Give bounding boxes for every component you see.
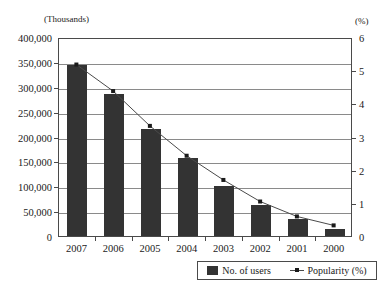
y-axis-left-tick-label: 300,000 (18, 82, 52, 93)
popularity-point-2004 (185, 154, 189, 158)
popularity-point-2005 (148, 124, 152, 128)
legend-item-popularity: Popularity (%) (290, 265, 367, 277)
x-axis-tick-mark (205, 237, 206, 241)
x-axis-tick-mark (132, 237, 133, 241)
popularity-point-2000 (332, 223, 336, 227)
popularity-point-2001 (295, 214, 299, 218)
legend-item-no-of-users: No. of users (207, 265, 271, 277)
legend-label-no-of-users: No. of users (222, 265, 271, 277)
y-axis-left-tick-label: 100,000 (18, 182, 52, 193)
y-axis-right-tick-label: 6 (359, 33, 364, 44)
right-axis-unit-label: (%) (355, 16, 369, 27)
popularity-point-2007 (74, 63, 78, 67)
x-axis-label-2000: 2000 (310, 243, 358, 255)
y-axis-right-tick-label: 0 (359, 232, 364, 243)
x-axis-tick-mark (95, 237, 96, 241)
y-axis-left-tick-label: 350,000 (18, 57, 52, 68)
y-axis-left-tick-label: 200,000 (18, 132, 52, 143)
y-axis-right-tick-label: 5 (359, 66, 364, 77)
bar-swatch-icon (207, 266, 218, 275)
y-axis-right-tick-label: 1 (359, 198, 364, 209)
legend-label-popularity: Popularity (%) (308, 265, 367, 277)
y-axis-left-tick-label: 250,000 (18, 107, 52, 118)
x-axis-tick-mark (168, 237, 169, 241)
left-axis-unit-label: (Thousands) (44, 14, 89, 25)
popularity-point-2006 (111, 89, 115, 93)
y-axis-right-tick-mark (352, 171, 356, 172)
x-axis-tick-mark (279, 237, 280, 241)
y-axis-right-tick-label: 3 (359, 132, 364, 143)
x-axis-tick-mark (242, 237, 243, 241)
y-axis-right-tick-mark (352, 138, 356, 139)
y-axis-left-tick-label: 400,000 (18, 33, 52, 44)
popularity-users-chart: (Thousands) (%) 050,000100,000150,000200… (0, 0, 383, 283)
y-axis-right-tick-label: 4 (359, 99, 364, 110)
line-series-popularity (58, 38, 352, 237)
y-axis-left-tick-label: 50,000 (23, 207, 52, 218)
y-axis-right-tick-mark (352, 71, 356, 72)
popularity-line-path (76, 65, 333, 226)
y-axis-right-tick-label: 2 (359, 165, 364, 176)
y-axis-left-tick-label: 0 (47, 232, 52, 243)
popularity-point-2002 (258, 200, 262, 204)
y-axis-left-tick-label: 150,000 (18, 157, 52, 168)
popularity-point-2003 (221, 178, 225, 182)
y-axis-right-tick-mark (352, 104, 356, 105)
y-axis-right-tick-mark (352, 204, 356, 205)
x-axis-tick-mark (315, 237, 316, 241)
chart-legend: No. of users Popularity (%) (197, 261, 377, 280)
line-marker-icon (290, 266, 304, 275)
